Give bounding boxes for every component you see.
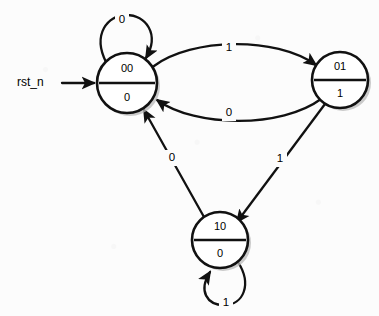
state-node-01[interactable]: 01 1: [312, 52, 371, 111]
edge-label-00-to-00: 0: [115, 12, 129, 28]
edge-label-01-to-10-text: 1: [277, 152, 283, 164]
edge-label-01-to-00: 0: [222, 105, 236, 121]
edge-label-10-to-10: 1: [219, 295, 233, 311]
edge-label-10-to-00-text: 0: [169, 151, 175, 163]
fsm-canvas: 00 0 01 1 10 0 rst_n 0 1: [0, 0, 379, 316]
state-01-name: 01: [334, 60, 346, 72]
edge-label-00-to-01-text: 1: [226, 41, 232, 53]
state-node-00[interactable]: 00 0: [97, 53, 160, 116]
state-machine-diagram: 00 0 01 1 10 0 rst_n 0 1: [0, 0, 379, 316]
edge-label-01-to-10: 1: [273, 151, 287, 167]
edge-label-00-to-01: 1: [222, 40, 236, 56]
state-00-output: 0: [124, 91, 130, 103]
state-10-output: 0: [217, 247, 223, 259]
edge-label-01-to-00-text: 0: [226, 106, 232, 118]
state-00-name: 00: [121, 62, 133, 74]
transition-01-to-00: [157, 99, 321, 121]
state-10-name: 10: [214, 220, 226, 232]
edge-label-10-to-00: 0: [165, 150, 179, 166]
reset-label-text: rst_n: [17, 75, 44, 89]
edge-label-10-to-10-text: 1: [223, 296, 229, 308]
edge-label-00-to-00-text: 0: [119, 13, 125, 25]
state-01-output: 1: [337, 87, 343, 99]
reset-signal-label: rst_n: [17, 75, 44, 89]
state-node-10[interactable]: 10 0: [192, 212, 251, 271]
